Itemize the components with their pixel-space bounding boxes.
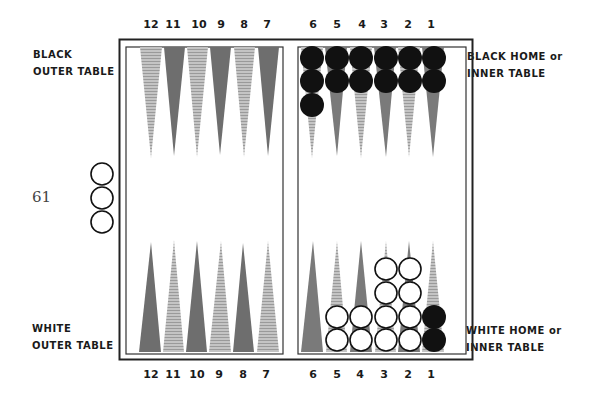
black-checker[interactable] bbox=[422, 69, 446, 93]
black-checker[interactable] bbox=[325, 46, 349, 70]
point-9-bottom bbox=[209, 241, 231, 352]
black-checker[interactable] bbox=[300, 46, 324, 70]
black-checker[interactable] bbox=[325, 69, 349, 93]
point-11-bottom bbox=[163, 240, 184, 352]
bottom-points-outer bbox=[139, 240, 279, 352]
point-12-bottom bbox=[139, 242, 161, 352]
white-checker[interactable] bbox=[91, 187, 113, 209]
white-checker[interactable] bbox=[375, 306, 397, 328]
white-checker[interactable] bbox=[326, 329, 348, 351]
black-checker[interactable] bbox=[422, 46, 446, 70]
white-checker[interactable] bbox=[399, 306, 421, 328]
point-8-bottom bbox=[233, 243, 254, 352]
white-checker[interactable] bbox=[91, 211, 113, 233]
black-checker[interactable] bbox=[374, 46, 398, 70]
white-checker[interactable] bbox=[375, 258, 397, 280]
white-checker[interactable] bbox=[350, 306, 372, 328]
white-checker[interactable] bbox=[375, 282, 397, 304]
white-checker[interactable] bbox=[399, 329, 421, 351]
black-checkers-top bbox=[300, 46, 446, 117]
point-12-top bbox=[140, 47, 162, 158]
black-checker[interactable] bbox=[374, 69, 398, 93]
black-checker[interactable] bbox=[300, 93, 324, 117]
point-7-top bbox=[258, 47, 279, 156]
black-checker[interactable] bbox=[422, 305, 446, 329]
black-checker[interactable] bbox=[422, 328, 446, 352]
point-6-bottom bbox=[301, 241, 323, 352]
bottom-points-inner bbox=[301, 241, 444, 352]
white-checker[interactable] bbox=[399, 258, 421, 280]
point-9-top bbox=[210, 47, 231, 155]
black-checker[interactable] bbox=[349, 69, 373, 93]
backgammon-board bbox=[0, 0, 599, 394]
white-checker[interactable] bbox=[91, 163, 113, 185]
top-points-outer bbox=[140, 47, 279, 158]
black-checker[interactable] bbox=[349, 46, 373, 70]
point-11-top bbox=[164, 47, 185, 156]
black-checker[interactable] bbox=[300, 69, 324, 93]
point-10-top bbox=[187, 47, 208, 157]
point-10-bottom bbox=[186, 241, 207, 352]
white-checkers-off-board bbox=[91, 163, 113, 233]
point-8-top bbox=[234, 47, 255, 157]
black-checker[interactable] bbox=[398, 69, 422, 93]
white-checker[interactable] bbox=[350, 329, 372, 351]
white-checker[interactable] bbox=[375, 329, 397, 351]
black-checker[interactable] bbox=[398, 46, 422, 70]
white-checker[interactable] bbox=[399, 282, 421, 304]
white-checker[interactable] bbox=[326, 306, 348, 328]
point-7-bottom bbox=[257, 241, 279, 352]
